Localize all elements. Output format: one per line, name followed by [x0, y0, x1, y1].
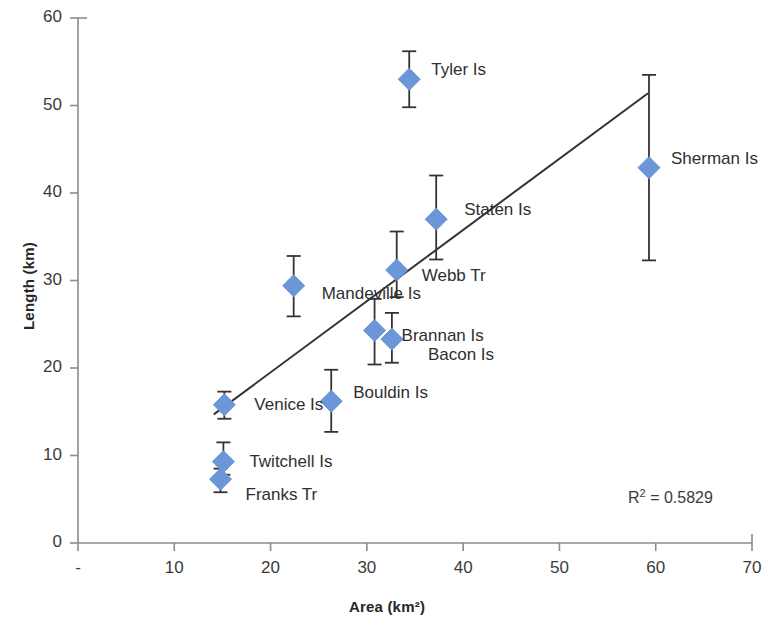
data-point-marker [283, 275, 305, 297]
data-point-label: Venice Is [254, 395, 323, 415]
data-point-label: Tyler Is [431, 60, 486, 80]
y-axis-title: Length (km) [20, 242, 37, 330]
data-point-marker [320, 390, 342, 412]
data-point-label: Mandeville Is [322, 284, 421, 304]
data-point-marker [398, 68, 420, 90]
x-tick-label: 10 [154, 558, 194, 578]
x-tick-label: 70 [732, 558, 772, 578]
y-tick-label: 50 [18, 95, 62, 115]
y-tick-label: 60 [18, 7, 62, 27]
data-point-marker [425, 208, 447, 230]
data-point-label: Bouldin Is [353, 383, 428, 403]
trendline-segment [214, 93, 648, 414]
x-tick-label: 30 [347, 558, 387, 578]
plot-area [0, 0, 774, 626]
data-point-label: Bacon Is [428, 345, 494, 365]
x-tick-label: - [58, 558, 98, 578]
scatter-chart: 0102030405060-10203040506070 Tyler IsShe… [0, 0, 774, 626]
y-tick-label: 0 [18, 532, 62, 552]
y-tick-label: 10 [18, 445, 62, 465]
data-point-label: Brannan Is [402, 326, 484, 346]
data-point-label: Webb Tr [422, 266, 486, 286]
x-tick-label: 50 [539, 558, 579, 578]
y-tick-label: 40 [18, 182, 62, 202]
data-point-label: Franks Tr [246, 485, 318, 505]
x-tick-label: 40 [443, 558, 483, 578]
trendline [214, 93, 648, 414]
r-squared-annotation: R2 = 0.5829 [628, 487, 713, 507]
data-point-marker [386, 259, 408, 281]
data-point-marker [210, 468, 232, 490]
data-point-label: Sherman Is [671, 149, 758, 169]
x-tick-label: 20 [251, 558, 291, 578]
x-axis-title: Area (km²) [0, 598, 774, 615]
data-point-label: Twitchell Is [249, 452, 332, 472]
y-tick-label: 20 [18, 357, 62, 377]
data-point-label: Staten Is [464, 200, 531, 220]
x-tick-label: 60 [636, 558, 676, 578]
data-point-marker [638, 157, 660, 179]
